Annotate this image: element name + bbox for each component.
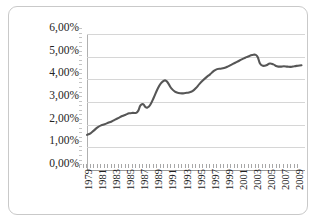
y-axis-minor-tick <box>79 119 82 120</box>
y-axis-minor-tick <box>79 123 82 124</box>
x-axis-tick <box>160 164 161 168</box>
x-axis-tick <box>199 164 200 168</box>
x-axis-tick <box>83 164 84 168</box>
y-axis-tick-label: 5,00% <box>23 45 79 56</box>
x-axis-tick <box>244 164 245 168</box>
x-axis-tick <box>248 164 249 168</box>
x-axis-tick-label: 1991 <box>167 169 178 190</box>
y-axis-minor-tick <box>79 87 82 88</box>
x-axis-tick <box>146 164 147 168</box>
y-axis-tick-label: 2,00% <box>23 113 79 124</box>
x-axis-tick <box>251 164 252 168</box>
plot-area <box>87 34 305 170</box>
x-axis-tick <box>213 164 214 168</box>
x-axis-tick <box>86 164 87 168</box>
y-axis-minor-tick <box>79 69 82 70</box>
y-axis-minor-tick <box>79 55 82 56</box>
x-axis-tick <box>142 164 143 168</box>
x-axis-tick-label: 1999 <box>224 169 235 190</box>
x-axis-tick <box>163 164 164 168</box>
x-axis-tick <box>265 164 266 168</box>
series-line-rate <box>87 34 305 170</box>
x-axis-tick <box>167 164 168 168</box>
y-axis-minor-tick <box>79 150 82 151</box>
y-axis-labels: 6,00%5,00%4,00%3,00%2,00%1,00%0,00% <box>21 7 79 223</box>
y-axis-minor-tick <box>79 28 82 29</box>
y-axis-minor-tick <box>79 33 82 34</box>
y-axis-minor-tick <box>79 78 82 79</box>
y-axis-minor-tick <box>79 132 82 133</box>
x-axis-tick-label: 1989 <box>153 169 164 190</box>
x-axis-tick <box>90 164 91 168</box>
x-axis-tick <box>156 164 157 168</box>
x-axis-tick <box>223 164 224 168</box>
x-axis-tick <box>97 164 98 168</box>
x-axis-tick <box>234 164 235 168</box>
x-axis-tick <box>93 164 94 168</box>
x-axis-tick <box>104 164 105 168</box>
x-axis-tick <box>272 164 273 168</box>
x-axis-tick <box>202 164 203 168</box>
x-axis-tick <box>107 164 108 168</box>
x-axis-tick <box>258 164 259 168</box>
x-axis-tick <box>269 164 270 168</box>
y-axis-minor-tick <box>79 42 82 43</box>
x-axis-tick-label: 2001 <box>238 169 249 190</box>
x-axis-tick <box>297 164 298 168</box>
x-axis-tick-label: 1995 <box>196 169 207 190</box>
y-axis-minor-tick <box>79 137 82 138</box>
x-axis-tick <box>111 164 112 168</box>
y-axis-tick-label: 0,00% <box>23 158 79 169</box>
y-axis-minor-tick <box>79 146 82 147</box>
x-axis-tick <box>279 164 280 168</box>
x-axis-tick <box>287 164 288 168</box>
y-axis-minor-tick <box>79 101 82 102</box>
x-axis-tick <box>185 164 186 168</box>
x-axis-tick-label: 1985 <box>125 169 136 190</box>
x-axis-tick <box>174 164 175 168</box>
x-axis-tick <box>290 164 291 168</box>
x-axis-tick <box>149 164 150 168</box>
y-axis-minor-tick <box>79 92 82 93</box>
x-axis-tick-label: 2003 <box>252 169 263 190</box>
x-axis-tick-label: 1983 <box>111 169 122 190</box>
chart-frame: 6,00%5,00%4,00%3,00%2,00%1,00%0,00% 1979… <box>8 6 308 215</box>
y-axis-minor-tick <box>79 64 82 65</box>
y-axis-minor-tick <box>79 96 82 97</box>
y-axis-minor-tick <box>79 60 82 61</box>
y-axis-minor-tick <box>79 141 82 142</box>
x-axis-tick <box>100 164 101 168</box>
y-axis-minor-tick <box>79 51 82 52</box>
x-axis-tick <box>135 164 136 168</box>
x-axis-tick <box>216 164 217 168</box>
x-axis-tick-label: 2009 <box>294 169 305 190</box>
y-axis-tick-label: 4,00% <box>23 67 79 78</box>
x-axis-tick-label: 1987 <box>139 169 150 190</box>
x-axis-tick <box>209 164 210 168</box>
y-axis-minor-tick <box>79 128 82 129</box>
x-axis-tick <box>230 164 231 168</box>
y-axis-tick-label: 1,00% <box>23 135 79 146</box>
y-axis-minor-tick <box>79 160 82 161</box>
x-axis-tick <box>262 164 263 168</box>
y-axis-tick-label: 6,00% <box>23 22 79 33</box>
x-axis-tick <box>192 164 193 168</box>
x-axis-tick <box>121 164 122 168</box>
x-axis-tick <box>237 164 238 168</box>
y-axis-minor-tick <box>79 82 82 83</box>
x-axis-tick <box>132 164 133 168</box>
x-axis-tick-label: 2005 <box>266 169 277 190</box>
x-axis-tick <box>276 164 277 168</box>
x-axis-tick <box>170 164 171 168</box>
x-axis-tick <box>128 164 129 168</box>
x-axis-tick <box>153 164 154 168</box>
x-axis-tick <box>241 164 242 168</box>
x-axis-tick <box>255 164 256 168</box>
x-axis-tick-label: 1979 <box>83 169 94 190</box>
x-axis-tick <box>181 164 182 168</box>
y-axis-minor-tick <box>79 73 82 74</box>
y-axis-minor-tick <box>79 164 82 165</box>
x-axis-tick <box>114 164 115 168</box>
y-axis-minor-tick <box>79 37 82 38</box>
y-axis-minor-tick <box>79 155 82 156</box>
